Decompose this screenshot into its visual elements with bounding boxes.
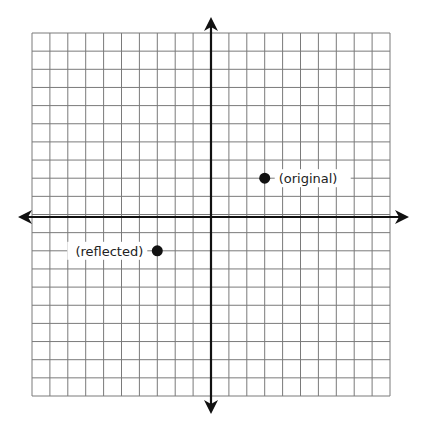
point-label: (reflected) [75,244,143,259]
point-marker-icon [259,173,270,184]
point-marker-icon [152,245,163,256]
axes [18,17,409,414]
point-label: (original) [279,171,338,186]
coordinate-plane: (original)(reflected) [0,0,422,434]
